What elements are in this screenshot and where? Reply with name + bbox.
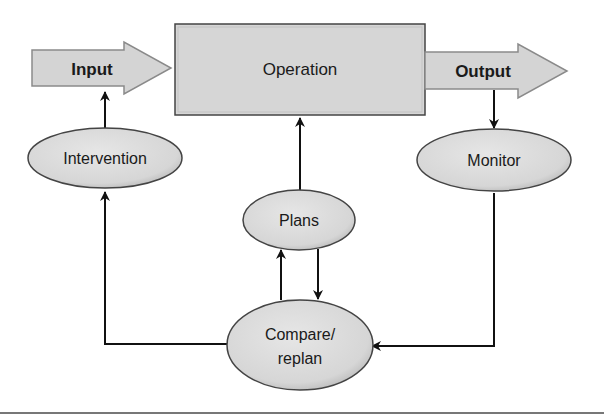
input-label: Input	[71, 60, 113, 79]
compare-label-line2: replan	[278, 350, 322, 367]
operation-box: Operation	[175, 24, 425, 115]
compare-label-line1: Compare/	[265, 326, 336, 343]
edge-monitor-compare	[372, 193, 494, 346]
input-arrow: Input	[32, 42, 171, 94]
output-arrow: Output	[425, 44, 567, 98]
operation-label: Operation	[263, 60, 338, 79]
plans-label: Plans	[279, 212, 319, 229]
intervention-label: Intervention	[63, 150, 147, 167]
plans-node: Plans	[243, 190, 355, 250]
diagram-canvas: Input Operation Output Intervention Mon	[0, 0, 604, 416]
intervention-node: Intervention	[28, 128, 182, 188]
output-label: Output	[455, 62, 511, 81]
monitor-label: Monitor	[467, 152, 521, 169]
monitor-node: Monitor	[417, 129, 571, 191]
edge-compare-intervention	[105, 192, 228, 344]
compare-replan-node: Compare/ replan	[227, 300, 373, 390]
